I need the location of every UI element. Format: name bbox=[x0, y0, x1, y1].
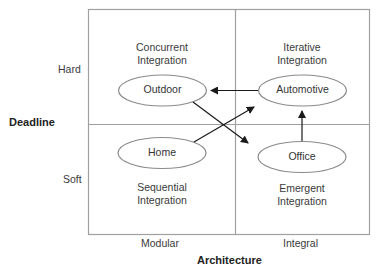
y-tick-hard: Hard bbox=[58, 63, 81, 76]
quadrant-label-line2: Integration bbox=[247, 54, 357, 67]
x-axis-title: Architecture bbox=[197, 254, 262, 267]
quadrant-label-line2: Integration bbox=[107, 194, 217, 207]
y-axis-title: Deadline bbox=[9, 116, 55, 129]
quadrant-label-line1: Sequential bbox=[107, 181, 217, 194]
y-tick-soft: Soft bbox=[63, 173, 82, 186]
node-home-label: Home bbox=[118, 146, 206, 158]
x-tick-modular: Modular bbox=[141, 237, 179, 250]
quadrant-label-line2: Integration bbox=[247, 195, 357, 208]
quadrant-label-concurrent: Concurrent Integration bbox=[107, 41, 217, 67]
quadrant-label-line2: Integration bbox=[107, 54, 217, 67]
quadrant-label-emergent: Emergent Integration bbox=[247, 182, 357, 208]
quadrant-label-sequential: Sequential Integration bbox=[107, 181, 217, 207]
node-office-label: Office bbox=[258, 150, 346, 162]
node-outdoor-label: Outdoor bbox=[118, 83, 207, 95]
quadrant-label-line1: Emergent bbox=[247, 182, 357, 195]
quadrant-label-line1: Concurrent bbox=[107, 41, 217, 54]
arrow-outdoor-to-office bbox=[193, 102, 248, 143]
node-automotive-label: Automotive bbox=[258, 83, 347, 95]
x-tick-integral: Integral bbox=[283, 237, 318, 250]
quadrant-label-iterative: Iterative Integration bbox=[247, 41, 357, 67]
quadrant-label-line1: Iterative bbox=[247, 41, 357, 54]
